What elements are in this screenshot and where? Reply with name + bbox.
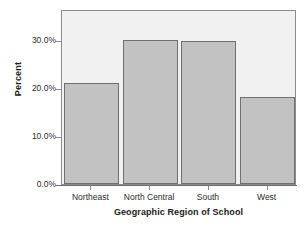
x-axis-title: Geographic Region of School: [61, 207, 296, 217]
bar: [240, 97, 295, 184]
x-tick-label: North Central: [120, 192, 179, 202]
plot-area: [61, 10, 296, 185]
bar: [64, 83, 119, 184]
x-tick-mark: [208, 186, 209, 190]
bars-layer: [62, 11, 295, 184]
x-tick-label: South: [179, 192, 238, 202]
x-tick-label: Northeast: [61, 192, 120, 202]
x-tick-mark: [90, 186, 91, 190]
y-tick-label: 20.0%: [16, 83, 56, 93]
y-tick-label: 0.0%: [16, 179, 56, 189]
y-tick-label: 30.0%: [16, 35, 56, 45]
x-tick-mark: [267, 186, 268, 190]
bar: [123, 40, 178, 184]
bar: [181, 41, 236, 184]
bar-chart: Percent 0.0%10.0%20.0%30.0% NortheastNor…: [0, 0, 307, 232]
y-axis-ticks: 0.0%10.0%20.0%30.0%: [12, 0, 56, 232]
x-tick-mark: [149, 186, 150, 190]
y-tick-label: 10.0%: [16, 131, 56, 141]
x-tick-label: West: [237, 192, 296, 202]
x-axis-line: [56, 185, 297, 186]
